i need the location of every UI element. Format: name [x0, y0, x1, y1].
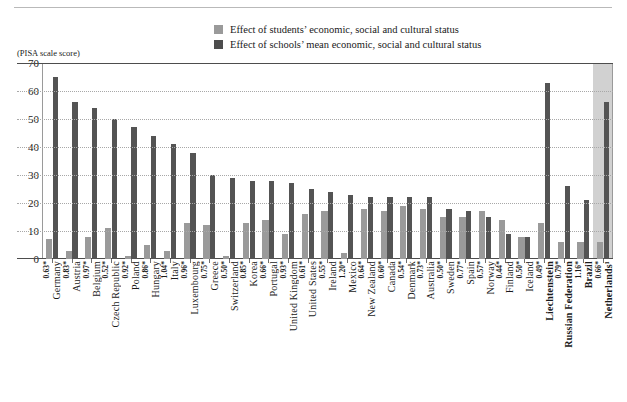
top-divider [14, 7, 612, 8]
x-axis-label-group: 0.97*Belgium [81, 261, 101, 399]
x-axis-labels: 0.63*Germany0.83*Austria0.97*Belgium0.52… [42, 261, 613, 401]
bar-group [62, 63, 82, 259]
bar-group [121, 63, 141, 259]
bar-group [101, 63, 121, 259]
bar-students-effect [440, 217, 446, 259]
x-axis-label-group: 0.50*Switzerland [219, 261, 239, 399]
x-axis-label-group: 1.20*Mexico [337, 261, 357, 399]
x-axis-label-group: 0.92*Poland [121, 261, 141, 399]
bar-group [554, 63, 574, 259]
bar-schools-effect [250, 181, 255, 259]
bar-schools-effect [92, 108, 97, 259]
x-axis-label-group: 0.66*Netherlands¹ [593, 261, 613, 399]
bar-group [436, 63, 456, 259]
bar-group [377, 63, 397, 259]
x-axis-label-group: 0.66*Portugal [259, 261, 279, 399]
bar-group [180, 63, 200, 259]
bar-schools-effect [289, 183, 294, 259]
x-axis-label-group: 0.57*Norway [475, 261, 495, 399]
bar-students-effect [538, 223, 544, 259]
bar-schools-effect [506, 234, 511, 259]
gridline [17, 175, 613, 176]
bar-schools-effect [387, 197, 392, 259]
x-axis-label-group: 0.96*Luxembourg [180, 261, 200, 399]
bar-series-container [42, 63, 613, 259]
bar-group [416, 63, 436, 259]
bar-schools-effect [309, 189, 314, 259]
bar-schools-effect [466, 211, 471, 259]
bar-schools-effect [328, 192, 333, 259]
bar-group [337, 63, 357, 259]
gridline [17, 147, 613, 148]
bar-students-effect [361, 209, 367, 259]
bar-group [298, 63, 318, 259]
bar-students-effect [499, 220, 505, 259]
x-axis-label-group: 0.64*New Zealand [357, 261, 377, 399]
chart-page: Effect of students’ economic, social and… [0, 0, 627, 402]
bar-students-effect [164, 251, 170, 259]
bar-group [534, 63, 554, 259]
bar-students-effect [321, 211, 327, 259]
bar-group [515, 63, 535, 259]
y-axis-tick-labels: 010203040506070 [17, 63, 39, 259]
bar-group [160, 63, 180, 259]
bar-schools-effect [427, 197, 432, 259]
bar-group [200, 63, 220, 259]
y-tick-label: 0 [34, 254, 40, 265]
x-label-country: Netherlands¹ [604, 261, 614, 319]
x-axis-label-group: 0.54*Denmark [396, 261, 416, 399]
bar-students-effect [184, 223, 190, 259]
bar-group [357, 63, 377, 259]
bar-students-effect [262, 220, 268, 259]
bar-students-effect [400, 206, 406, 259]
legend-swatch-dark-icon [214, 40, 223, 49]
bar-students-effect [558, 242, 564, 259]
x-axis-label-group: 0.55*Ireland [318, 261, 338, 399]
bar-students-effect [282, 234, 288, 259]
bar-schools-effect [210, 175, 215, 259]
x-axis-label-group: 0.49*Liechtenstein [534, 261, 554, 399]
gridline [17, 119, 613, 120]
bar-schools-effect [446, 209, 451, 259]
plot-canvas [42, 63, 613, 259]
chart-legend: Effect of students’ economic, social and… [214, 24, 481, 50]
bar-group [475, 63, 495, 259]
bar-schools-effect [112, 119, 117, 259]
bar-students-effect [420, 209, 426, 259]
x-axis-label-group: 1.04*Italy [160, 261, 180, 399]
bar-schools-effect [171, 144, 176, 259]
bar-schools-effect [525, 237, 530, 259]
bar-schools-effect [230, 178, 235, 259]
bar-group [239, 63, 259, 259]
bar-students-effect [66, 251, 72, 259]
bar-students-effect [243, 223, 249, 259]
bar-students-effect [577, 242, 583, 259]
x-axis-label-group: 0.44*Finland [495, 261, 515, 399]
legend-swatch-light-icon [214, 25, 223, 34]
x-axis-label-group: 0.77*Spain [455, 261, 475, 399]
legend-item-students: Effect of students’ economic, social and… [214, 24, 481, 35]
legend-item-schools: Effect of schools’ mean economic, social… [214, 39, 481, 50]
plot-area: 010203040506070 [17, 63, 613, 259]
bar-group [455, 63, 475, 259]
x-axis-label-group: 0.73*Australia [416, 261, 436, 399]
bar-group [495, 63, 515, 259]
gridline [17, 91, 613, 92]
bar-students-effect [46, 239, 52, 259]
x-axis-label-group: 0.63*Germany [42, 261, 62, 399]
x-axis-label-group: 0.60*Canada [377, 261, 397, 399]
bar-schools-effect [190, 153, 195, 259]
x-axis-label-group: 0.86*Hungary [140, 261, 160, 399]
bar-students-effect [381, 211, 387, 259]
bar-group [318, 63, 338, 259]
bar-students-effect [597, 242, 603, 259]
bar-schools-effect [486, 217, 491, 259]
bar-group [593, 63, 613, 259]
x-axis-label-group: 0.50*Iceland [515, 261, 535, 399]
bar-group [42, 63, 62, 259]
bar-schools-effect [72, 102, 77, 259]
bar-schools-effect [348, 195, 353, 259]
bar-schools-effect [269, 181, 274, 259]
x-axis-label-group: 0.79*Russian Federation [554, 261, 574, 399]
x-axis-label-group: 0.93*United Kingdom [278, 261, 298, 399]
